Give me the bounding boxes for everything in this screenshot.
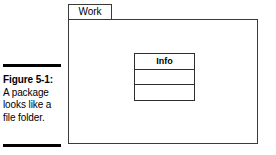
package-tab: Work (68, 4, 112, 20)
caption-text: Figure 5-1: A package looks like a file … (3, 74, 61, 124)
uml-package: Work Info (68, 4, 258, 144)
caption-line-1: A package (3, 87, 61, 100)
class-box-attributes-compartment (135, 70, 194, 85)
caption-rule-bottom (3, 144, 61, 147)
uml-class-box: Info (134, 53, 195, 101)
caption-line-3: file folder. (3, 112, 61, 125)
caption-line-2: looks like a (3, 99, 61, 112)
figure-caption: Figure 5-1: A package looks like a file … (3, 64, 61, 124)
figure-page: Figure 5-1: A package looks like a file … (0, 0, 276, 155)
package-body: Info (68, 19, 258, 144)
package-tab-label: Work (78, 7, 101, 18)
figure-number-label: Figure 5-1: (3, 74, 61, 87)
class-box-operations-compartment (135, 85, 194, 100)
caption-rule-top (3, 64, 61, 67)
class-box-title: Info (156, 57, 173, 66)
class-box-header: Info (135, 54, 194, 70)
